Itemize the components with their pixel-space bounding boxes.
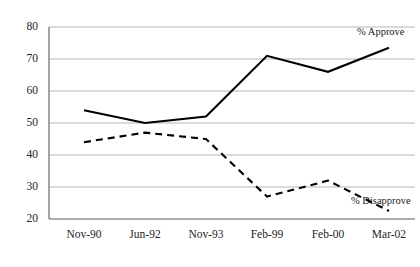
- x-tick-label-3: Feb-99: [234, 229, 300, 241]
- x-tick-label-5: Mar-02: [356, 229, 420, 241]
- y-tick-label-40: 40: [4, 149, 38, 161]
- y-tick-label-30: 30: [4, 181, 38, 193]
- y-tick-label-50: 50: [4, 117, 38, 129]
- x-tick-label-0: Nov-90: [51, 229, 117, 241]
- y-tick-label-20: 20: [4, 213, 38, 225]
- y-tick-label-70: 70: [4, 53, 38, 65]
- x-tick-label-1: Jun-92: [112, 229, 178, 241]
- series-label-disapprove: % Disapprove: [351, 196, 411, 207]
- line-chart: 80 70 60 50 40 30 20 Nov-90 Jun-92 Nov-9…: [0, 0, 420, 267]
- y-tick-label-80: 80: [4, 21, 38, 33]
- series-label-approve: % Approve: [357, 27, 405, 38]
- x-tick-label-4: Feb-00: [295, 229, 361, 241]
- x-tick-label-2: Nov-93: [173, 229, 239, 241]
- y-tick-label-60: 60: [4, 85, 38, 97]
- chart-plot-area: [0, 0, 420, 267]
- series-line-disapprove: [84, 133, 389, 211]
